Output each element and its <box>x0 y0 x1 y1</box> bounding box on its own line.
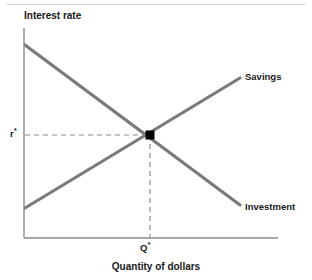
investment-curve <box>25 45 240 205</box>
x-axis-title: Quantity of dollars <box>0 262 312 272</box>
loanable-funds-diagram: Interest rate Quantity of dollars Saving… <box>0 0 312 280</box>
savings-curve-label: Savings <box>245 72 281 82</box>
y-axis-equilibrium-tick-label: r* <box>10 129 17 139</box>
chart-canvas <box>0 0 312 280</box>
investment-curve-label: Investment <box>245 202 295 212</box>
y-axis-title: Interest rate <box>24 11 81 21</box>
x-axis-equilibrium-tick-label: Q* <box>140 243 151 253</box>
savings-curve <box>25 78 240 208</box>
r-star-mark: * <box>14 126 17 135</box>
q-star-mark: * <box>147 240 150 249</box>
equilibrium-point-marker <box>146 131 155 140</box>
